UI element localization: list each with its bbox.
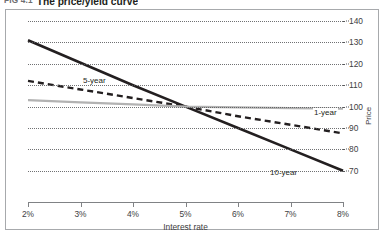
page-title: The price/yield curve (37, 0, 138, 7)
gridline (28, 21, 343, 22)
figure-number: FIG 4.1 (4, 0, 33, 5)
x-axis-title: Interest rate (28, 222, 343, 232)
y-axis-tick-label: 110 (349, 80, 375, 90)
chart-panel: 5-year 1-year 10-year Price Interest rat… (5, 9, 379, 230)
y-axis-tick-label: 120 (349, 59, 375, 69)
y-axis-tick-label: 140 (349, 16, 375, 26)
gridline (28, 64, 343, 65)
y-axis-tick-label: 70 (349, 166, 375, 176)
figure-title-row: FIG 4.1The price/yield curve (4, 0, 138, 8)
gridline (28, 107, 343, 108)
y-axis-tick-label: 100 (349, 102, 375, 112)
x-axis-tick-label: 2% (8, 209, 48, 219)
x-axis-tick-label: 7% (271, 209, 311, 219)
y-axis-tick-label: 90 (349, 123, 375, 133)
x-axis-tick-mark (28, 202, 29, 207)
series-label-10-year: 10-year (269, 168, 298, 177)
x-axis-tick-mark (81, 202, 82, 207)
x-axis-tick-mark (291, 202, 292, 207)
series-label-5-year: 5-year (82, 76, 107, 85)
x-axis-tick-label: 4% (113, 209, 153, 219)
series-label-1-year: 1-year (313, 108, 338, 117)
figure-container: FIG 4.1The price/yield curve 5-year 1-ye… (0, 0, 384, 234)
x-axis-tick-mark (133, 202, 134, 207)
x-axis-tick-label: 3% (61, 209, 101, 219)
gridline (28, 128, 343, 129)
gridline (28, 171, 343, 172)
y-axis-tick-label: 130 (349, 37, 375, 47)
gridline (28, 85, 343, 86)
x-axis-tick-label: 6% (218, 209, 258, 219)
gridline (28, 42, 343, 43)
x-axis-tick-label: 8% (323, 209, 363, 219)
x-axis-tick-mark (186, 202, 187, 207)
x-axis-tick-mark (238, 202, 239, 207)
x-axis-tick-label: 5% (166, 209, 206, 219)
y-axis-tick-label: 80 (349, 144, 375, 154)
x-axis-tick-mark (343, 202, 344, 207)
gridline (28, 149, 343, 150)
